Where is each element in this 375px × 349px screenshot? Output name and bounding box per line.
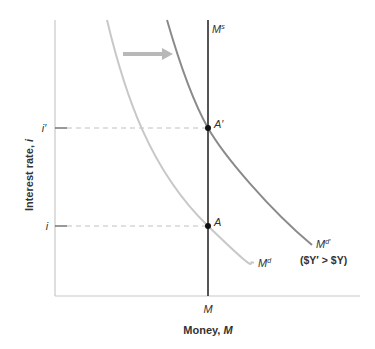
income-condition-label: ($Y′ > $Y) xyxy=(300,254,347,266)
md-label: Md xyxy=(258,257,272,269)
ms-label: Ms xyxy=(212,23,225,35)
point-a xyxy=(205,223,211,229)
y-tick-label-i-prime: i′ xyxy=(42,122,47,134)
shift-arrow-icon xyxy=(123,48,173,60)
x-axis-title: Money, M xyxy=(183,324,233,336)
point-a-prime xyxy=(205,125,211,131)
md-prime-label: Md′ xyxy=(316,238,331,250)
md-prime-curve xyxy=(167,20,312,245)
y-tick-label-i: i xyxy=(46,220,49,232)
point-a-prime-label: A′ xyxy=(213,118,224,130)
y-axis-title: Interest rate, i xyxy=(23,138,35,211)
chart: A′ A Ms Md Md′ ($Y′ > $Y) i′ i M Money, … xyxy=(0,0,375,349)
x-tick-label-m: M xyxy=(203,303,213,315)
point-a-label: A xyxy=(213,216,221,228)
md-curve xyxy=(107,20,254,264)
